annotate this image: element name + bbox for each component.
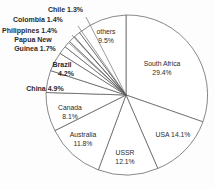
label-south-africa-name: South Africa — [144, 60, 181, 67]
label-australia-pct: 11.8% — [74, 140, 93, 147]
label-philippines: Philippines 1.4% — [2, 27, 58, 35]
label-china: China 4.9% — [26, 85, 64, 92]
label-australia-name: Australia — [70, 131, 97, 138]
label-usa: USA 14.1% — [156, 131, 191, 138]
label-ussr-name: USSR — [116, 149, 135, 156]
label-ussr-pct: 12.1% — [115, 158, 134, 165]
label-others-name: others — [97, 28, 116, 35]
pie-chart-svg: South Africa 29.4% USA 14.1% USSR 12.1% … — [0, 0, 215, 190]
label-others-pct: 9.5% — [98, 37, 114, 44]
label-chile: Chile 1.3% — [48, 6, 84, 13]
label-papua-new-guinea-line2: Guinea 1.7% — [14, 45, 56, 52]
label-south-africa-pct: 29.4% — [152, 69, 171, 76]
label-papua-new-guinea-line1: Papua New — [14, 36, 52, 44]
label-canada-pct: 8.1% — [62, 113, 78, 120]
label-brazil-pct: 4.2% — [58, 70, 75, 77]
pie-chart: South Africa 29.4% USA 14.1% USSR 12.1% … — [0, 0, 215, 190]
label-canada-name: Canada — [58, 104, 82, 111]
label-brazil-name: Brazil — [52, 61, 71, 68]
label-colombia: Colombia 1.4% — [13, 16, 64, 23]
